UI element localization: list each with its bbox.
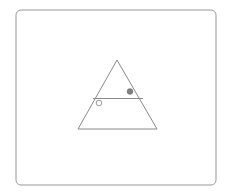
open-circle-marker-icon — [96, 100, 102, 106]
geometry-figure-canvas — [0, 0, 234, 194]
outer-frame-rect — [16, 10, 216, 185]
filled-circle-marker-icon — [127, 89, 133, 95]
